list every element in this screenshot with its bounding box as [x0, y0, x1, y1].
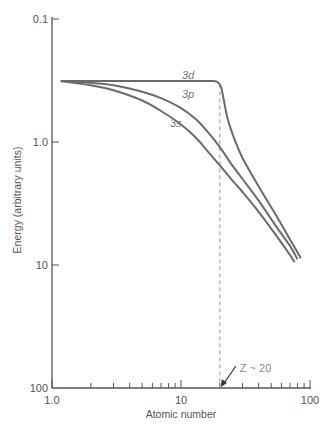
- y-tick-label: 10: [36, 259, 48, 271]
- curve-3s: [61, 81, 295, 262]
- z20-annotation-label: Z ~ 20: [240, 362, 272, 374]
- y-axis-title: Energy (arbitrary units): [11, 147, 23, 254]
- ticks: 0.11.0101001.010100: [30, 13, 320, 406]
- x-tick-label: 1.0: [44, 394, 59, 406]
- curve-label-3p: 3p: [182, 88, 194, 100]
- y-tick-label: 1.0: [33, 136, 48, 148]
- x-axis-title: Atomic number: [146, 408, 217, 420]
- x-tick-label: 10: [175, 394, 187, 406]
- curve-3p: [61, 81, 298, 259]
- chart: 0.11.0101001.010100 Z ~ 20 3d 3p 3s Atom…: [0, 0, 328, 437]
- curve-label-3d: 3d: [182, 69, 195, 81]
- curves: [61, 81, 301, 262]
- annotation-group: Z ~ 20: [220, 84, 272, 388]
- y-tick-label: 100: [30, 382, 48, 394]
- curve-label-3s: 3s: [170, 117, 182, 129]
- y-tick-label: 0.1: [33, 13, 48, 25]
- x-tick-label: 100: [301, 394, 319, 406]
